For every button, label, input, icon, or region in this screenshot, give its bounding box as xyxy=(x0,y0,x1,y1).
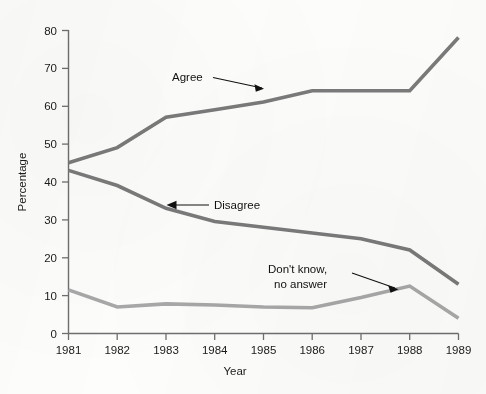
chart-background xyxy=(0,0,486,394)
x-tick-label-1985: 1985 xyxy=(251,344,277,356)
y-tick-label-30: 30 xyxy=(44,214,57,226)
y-axis-title: Percentage xyxy=(16,153,28,212)
x-tick-label-1989: 1989 xyxy=(446,344,472,356)
y-tick-label-0: 0 xyxy=(51,328,57,340)
annotation-dont-know-line2: no answer xyxy=(274,278,327,290)
y-tick-label-40: 40 xyxy=(44,176,57,188)
chart-figure: 80 70 60 50 40 30 20 10 0 Percentage xyxy=(0,0,486,394)
y-tick-label-50: 50 xyxy=(44,138,57,150)
annotation-agree-label: Agree xyxy=(172,71,203,83)
y-tick-label-80: 80 xyxy=(44,25,57,37)
x-tick-label-1981: 1981 xyxy=(56,344,82,356)
y-tick-label-10: 10 xyxy=(44,290,57,302)
annotation-dont-know-line1: Don't know, xyxy=(268,263,327,275)
x-tick-label-1987: 1987 xyxy=(348,344,374,356)
x-axis-tick-labels: 1981 1982 1983 1984 1985 1986 1987 1988 … xyxy=(56,344,472,356)
line-chart-svg: 80 70 60 50 40 30 20 10 0 Percentage xyxy=(0,0,486,394)
x-axis-title: Year xyxy=(223,365,246,377)
y-tick-label-70: 70 xyxy=(44,62,57,74)
y-tick-label-60: 60 xyxy=(44,100,57,112)
x-tick-label-1983: 1983 xyxy=(153,344,179,356)
y-axis-tick-labels: 80 70 60 50 40 30 20 10 0 xyxy=(44,25,57,340)
x-tick-label-1984: 1984 xyxy=(202,344,228,356)
x-tick-label-1988: 1988 xyxy=(397,344,423,356)
x-tick-label-1986: 1986 xyxy=(299,344,325,356)
y-tick-label-20: 20 xyxy=(44,252,57,264)
x-tick-label-1982: 1982 xyxy=(104,344,130,356)
annotation-disagree-label: Disagree xyxy=(214,199,260,211)
